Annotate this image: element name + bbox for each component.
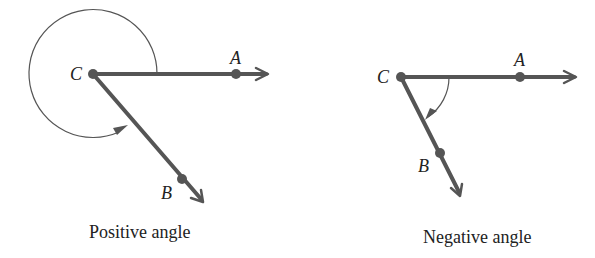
negative-angle-figure: C A B Negative angle <box>377 50 576 247</box>
point-b <box>177 174 187 184</box>
label-a: A <box>513 50 526 70</box>
caption-positive: Positive angle <box>89 222 191 242</box>
label-b: B <box>161 183 172 203</box>
point-a <box>515 72 525 82</box>
point-c <box>88 69 98 79</box>
angle-diagram: C A B Positive angle C A B Negative angl… <box>0 0 595 258</box>
point-b <box>435 148 445 158</box>
point-c <box>396 72 406 82</box>
caption-negative: Negative angle <box>423 227 531 247</box>
ray-cb <box>401 77 459 192</box>
negative-arc-arrowhead <box>425 108 437 120</box>
positive-angle-figure: C A B Positive angle <box>29 10 268 242</box>
point-a <box>231 69 241 79</box>
label-c: C <box>377 67 390 87</box>
label-c: C <box>70 64 83 84</box>
label-b: B <box>418 156 429 176</box>
label-a: A <box>229 48 242 68</box>
